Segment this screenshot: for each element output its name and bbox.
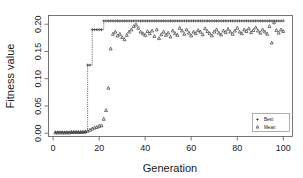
x-tick-label: 100: [276, 143, 291, 153]
x-tick-label: 60: [186, 143, 196, 153]
x-tick-label: 20: [94, 143, 104, 153]
x-axis-title: Generation: [143, 162, 197, 174]
x-tick-label: 80: [232, 143, 242, 153]
legend-label-best: Best: [264, 117, 274, 122]
chart-background: [0, 0, 303, 178]
legend-label-mean: Mean: [264, 125, 276, 130]
chart-legend[interactable]: BestMean: [253, 114, 290, 132]
y-tick-label: 0.10: [33, 70, 43, 88]
x-tick-label: 0: [51, 143, 56, 153]
x-tick-label: 40: [140, 143, 150, 153]
y-tick-label: 0.00: [33, 124, 43, 142]
y-tick-label: 0.20: [33, 15, 43, 33]
fitness-value-vs-generation-chart: 0.000.050.100.150.20 020406080100 Genera…: [0, 0, 303, 178]
fitness-chart-figure: 0.000.050.100.150.20 020406080100 Genera…: [0, 0, 303, 178]
y-axis-title: Fitness value: [4, 44, 16, 109]
y-tick-label: 0.05: [33, 97, 43, 115]
y-tick-label: 0.15: [33, 43, 43, 61]
